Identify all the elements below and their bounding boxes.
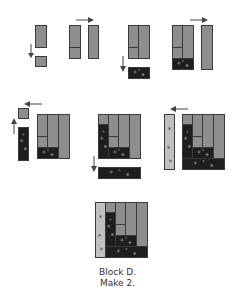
tall-gray-strip	[136, 202, 148, 247]
dark-print-strip	[108, 147, 130, 159]
dark-print-strip	[18, 127, 29, 161]
dark-print-strip-bottom	[182, 158, 225, 170]
tall-gray-strip	[182, 25, 194, 59]
arrow-left-icon	[170, 106, 188, 112]
gray-square	[35, 56, 47, 67]
arrow-right-icon	[76, 17, 94, 23]
arrow-right-icon	[190, 17, 208, 23]
caption-quantity: Make 2.	[0, 278, 235, 289]
gray-rectangle	[69, 25, 81, 48]
dark-print-strip	[128, 67, 150, 79]
gray-square	[69, 47, 81, 59]
tall-gray-strip	[138, 25, 150, 59]
arrow-down-icon	[91, 156, 97, 172]
arrow-down-icon	[120, 56, 126, 72]
gray-square	[18, 108, 29, 119]
tall-gray-strip	[213, 114, 225, 159]
dark-print-strip-bottom	[98, 167, 141, 179]
tall-gray-strip	[58, 114, 70, 159]
light-print-strip	[164, 114, 175, 170]
dark-print-strip	[172, 58, 194, 70]
arrow-left-icon	[24, 101, 42, 107]
caption-title: Block D.	[0, 267, 235, 278]
gray-rectangle	[35, 25, 47, 48]
caption: Block D. Make 2.	[0, 267, 235, 289]
arrow-down-icon	[28, 44, 34, 58]
tall-gray-strip	[201, 25, 213, 70]
arrow-up-icon	[11, 118, 17, 134]
tall-gray-strip	[129, 114, 141, 159]
dark-print-strip	[37, 147, 59, 159]
tall-gray-strip	[88, 25, 99, 59]
dark-print-strip-bottom	[105, 246, 148, 258]
